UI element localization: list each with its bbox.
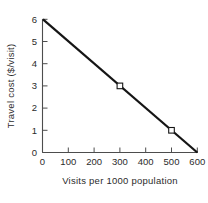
x-tick-labels: 0 100 200 300 400 500 600 [40, 156, 205, 167]
chart-figure: 0 1 2 3 4 5 6 0 100 200 300 400 500 600 … [0, 0, 208, 203]
x-tick-label: 100 [60, 156, 76, 167]
x-tick-label: 200 [86, 156, 102, 167]
y-tick-labels: 0 1 2 3 4 5 6 [32, 14, 37, 158]
y-tick-label: 3 [32, 80, 37, 91]
y-tick-label: 0 [32, 147, 37, 158]
x-tick-label: 600 [189, 156, 205, 167]
x-tick-label: 500 [164, 156, 180, 167]
y-axis-title: Travel cost ($/visit) [5, 44, 16, 129]
y-tick-label: 5 [32, 36, 37, 47]
y-tick-label: 2 [32, 102, 37, 113]
x-tick-label: 300 [112, 156, 128, 167]
x-axis-title: Visits per 1000 population [62, 175, 178, 186]
travel-cost-line-chart: 0 1 2 3 4 5 6 0 100 200 300 400 500 600 … [0, 0, 208, 203]
data-point-marker [169, 128, 175, 134]
x-tick-label: 400 [138, 156, 154, 167]
x-tick-label: 0 [40, 156, 45, 167]
y-tick-label: 4 [32, 58, 37, 69]
data-series-group [43, 19, 197, 152]
x-tick-marks [43, 148, 198, 153]
y-tick-label: 6 [32, 14, 37, 25]
y-tick-marks [43, 19, 48, 152]
y-tick-label: 1 [32, 125, 37, 136]
data-point-marker [117, 83, 123, 89]
